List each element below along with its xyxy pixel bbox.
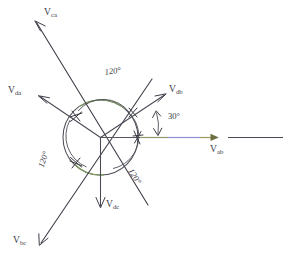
angle-arc-30 — [157, 113, 159, 135]
phasor-label-vca-base: V — [44, 7, 51, 17]
phasor-vbc-line — [41, 79, 152, 243]
phasor-label-vdb: Vdb — [169, 85, 183, 95]
phasor-label-vca-sub: ca — [51, 11, 57, 18]
phasor-label-vbc-base: V — [13, 235, 20, 245]
phasor-vab-group — [101, 134, 219, 141]
phasor-vda-group — [38, 96, 100, 138]
phasor-vbc-group — [39, 79, 152, 245]
phasor-diagram-canvas — [0, 0, 299, 265]
phasor-label-vda-base: V — [8, 85, 15, 95]
phasor-label-vca: Vca — [44, 8, 57, 18]
phasor-label-vda-sub: da — [15, 89, 21, 96]
phasor-label-vdb-sub: db — [176, 88, 183, 95]
phasor-label-vdc-sub: dc — [113, 203, 119, 210]
phasor-label-vdb-base: V — [169, 84, 176, 94]
phasor-vdc-group — [96, 138, 105, 208]
phasor-label-vab: Vab — [210, 145, 223, 155]
phasor-label-vab-base: V — [210, 144, 217, 154]
angle-arc-120-left — [66, 120, 87, 167]
phasor-label-vbc-sub: bc — [20, 239, 26, 246]
phasor-label-vdc-base: V — [106, 199, 113, 209]
phasor-diagram-figure: Vca Vda Vdb Vab Vdc Vbc 120° 120° 120° 3… — [0, 0, 299, 265]
angle-label-120-top: 120° — [104, 66, 121, 77]
reference-circle-arc-bottom — [75, 165, 104, 176]
angle-arc-30-group — [153, 111, 162, 136]
angle-arc-30-arrowhead-lower — [154, 128, 162, 135]
phasor-label-vbc: Vbc — [13, 236, 26, 246]
phasor-label-vab-sub: ab — [217, 148, 223, 155]
angle-label-30: 30° — [168, 112, 180, 121]
phasor-label-vda: Vda — [8, 86, 21, 96]
phasor-vab-arrowhead — [211, 134, 219, 141]
phasor-label-vdc: Vdc — [106, 200, 119, 210]
